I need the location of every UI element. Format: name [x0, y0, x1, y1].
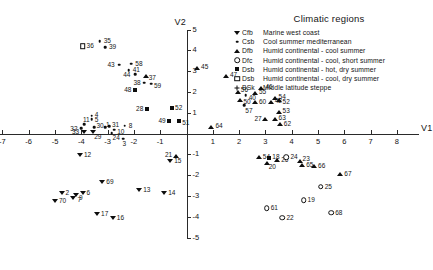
marker-tri-down-icon [77, 153, 83, 157]
legend-description: Cool summer mediterranean [263, 38, 352, 45]
legend-description: Humid continental - cool, short summer [263, 57, 385, 64]
legend-item-dfc-3[interactable]: DfcHumid continental - cool, short summe… [232, 56, 426, 65]
y-axis-label: V2 [175, 17, 187, 27]
point-label: 32 [70, 125, 77, 132]
marker-tri-up-icon [194, 66, 200, 70]
marker-circle-open-icon [280, 215, 286, 221]
marker-tri-down-icon [59, 191, 65, 195]
x-tick-label: -4 [78, 138, 85, 146]
point-label: 52 [175, 104, 182, 111]
y-axis-line [187, 30, 188, 238]
y-tick [187, 154, 191, 155]
y-tick-label: 4 [193, 46, 197, 54]
point-label: 57 [245, 107, 252, 114]
y-tick-label: -5 [193, 234, 200, 242]
marker-dot-icon [134, 73, 137, 76]
marker-dot-icon [123, 124, 126, 127]
legend-description: Humid continental - hot, dry summer [263, 66, 376, 73]
marker-tri-down-icon [110, 216, 116, 220]
legend-item-dfb-2[interactable]: DfbHumid continental - cool summer [232, 46, 426, 55]
legend-marker-plus-icon [232, 83, 242, 92]
legend-rows: CfbMarine west coastCsbCool summer medit… [232, 28, 426, 92]
x-tick [29, 130, 30, 134]
legend-description: Humid continental - cool, dry summer [263, 75, 379, 82]
y-tick [187, 217, 191, 218]
point-label: 38 [133, 79, 140, 86]
marker-circle-open-icon [284, 155, 290, 161]
legend-marker-tri-down-icon [232, 28, 242, 37]
point-label: 16 [117, 214, 124, 221]
marker-tri-down-icon [80, 191, 86, 195]
marker-dot-icon [150, 82, 153, 85]
marker-dot-icon [108, 125, 111, 128]
legend-code: Dsb [242, 75, 263, 82]
marker-tri-up-icon [262, 117, 268, 121]
point-label: 43 [107, 61, 114, 68]
point-label: 37 [149, 74, 156, 81]
point-label: 22 [286, 214, 293, 221]
point-label: 24 [113, 134, 120, 141]
point-label: 28 [136, 105, 143, 112]
x-tick [292, 130, 293, 134]
point-label: 20 [269, 163, 276, 170]
legend-item-csb-1[interactable]: CsbCool summer mediterranean [232, 37, 426, 46]
legend-code: Csb [242, 38, 263, 45]
marker-circle-open-icon [264, 206, 270, 212]
x-tick-label: -6 [25, 138, 32, 146]
point-label: 8 [129, 122, 133, 129]
point-label: 18 [272, 153, 279, 160]
point-label: 50 [243, 98, 250, 105]
point-label: 51 [182, 119, 189, 126]
x-tick-label: 8 [395, 138, 399, 146]
x-tick-label: -2 [131, 138, 138, 146]
point-label: 60 [259, 98, 266, 105]
marker-square-icon [170, 106, 174, 110]
y-tick [187, 113, 191, 114]
marker-dot-icon [118, 64, 121, 67]
marker-dot-icon [98, 40, 101, 43]
marker-dot-icon [91, 118, 94, 121]
legend-description: Humid continental - cool summer [263, 47, 365, 54]
y-tick [187, 238, 191, 239]
legend-marker-square-open-icon [232, 74, 242, 83]
legend: Climatic regions CfbMarine west coastCsb… [232, 13, 426, 92]
point-label: 9 [79, 194, 83, 201]
point-label: 48 [124, 86, 131, 93]
point-label: 29 [94, 133, 101, 140]
y-tick [187, 92, 191, 93]
x-tick-label: -7 [0, 138, 6, 146]
marker-dot-icon [130, 63, 133, 66]
legend-marker-tri-up-icon [232, 46, 242, 55]
legend-item-bsk-6[interactable]: BSkMiddle latitude steppe [232, 83, 426, 92]
point-label: 11 [83, 116, 90, 123]
marker-dot-icon [113, 128, 116, 131]
x-tick [213, 130, 214, 134]
point-label: 2 [66, 189, 70, 196]
legend-item-dsb-5[interactable]: DsbHumid continental - cool, dry summer [232, 74, 426, 83]
marker-tri-down-icon [52, 199, 58, 203]
legend-marker-circle-open-icon [232, 56, 242, 65]
x-tick [265, 130, 266, 134]
x-tick-label: 4 [290, 138, 294, 146]
point-label: 42 [275, 97, 282, 104]
x-tick [318, 130, 319, 134]
legend-item-cfb-0[interactable]: CfbMarine west coast [232, 28, 426, 37]
point-label: 6 [87, 189, 91, 196]
point-label: 70 [59, 197, 66, 204]
marker-square-icon [133, 88, 137, 92]
x-tick-label: 6 [342, 138, 346, 146]
marker-circle-open-icon [328, 210, 334, 216]
marker-tri-up-icon [173, 154, 179, 158]
x-tick-label: 5 [316, 138, 320, 146]
y-tick-label: -2 [193, 171, 200, 179]
x-tick [344, 130, 345, 134]
marker-tri-up-icon [337, 172, 343, 176]
legend-item-dsb-4[interactable]: DsbHumid continental - hot, dry summer [232, 65, 426, 74]
point-label: 3 [122, 140, 126, 147]
x-tick [371, 130, 372, 134]
x-tick [55, 130, 56, 134]
x-tick-label: -5 [52, 138, 59, 146]
x-tick [2, 130, 3, 134]
x-axis-label: V1 [421, 123, 433, 133]
